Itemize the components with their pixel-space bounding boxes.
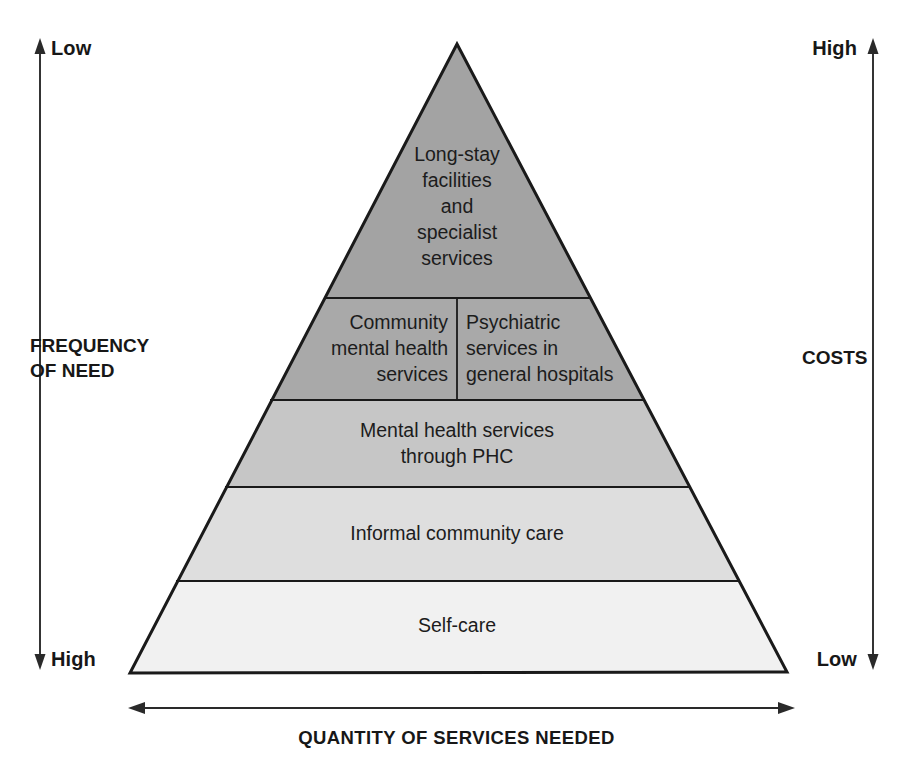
- pyramid-level-4-fill: [100, 487, 820, 581]
- frequency-axis-arrowhead-up: [35, 38, 46, 54]
- frequency-axis-arrowhead-down: [35, 654, 46, 670]
- pyramid-level-5-fill: [100, 581, 820, 676]
- frequency-axis-top-label: Low: [51, 37, 91, 60]
- costs-axis-arrow: [868, 38, 879, 670]
- costs-axis-bottom-label: Low: [762, 648, 857, 671]
- quantity-axis-arrow: [128, 702, 795, 714]
- quantity-axis-arrowhead-left: [128, 702, 145, 714]
- pyramid-level-1-fill: [100, 30, 820, 298]
- quantity-axis-title: QUANTITY OF SERVICES NEEDED: [0, 727, 913, 749]
- frequency-axis-title: FREQUENCY OF NEED: [30, 333, 149, 383]
- frequency-axis-bottom-label: High: [51, 648, 96, 671]
- costs-axis-title: COSTS: [802, 345, 867, 370]
- quantity-axis-arrowhead-right: [778, 702, 795, 714]
- pyramid-level-2-fill: [100, 298, 820, 400]
- costs-axis-top-label: High: [762, 37, 857, 60]
- costs-axis-arrowhead-down: [868, 654, 879, 670]
- pyramid-bands: [100, 30, 820, 676]
- costs-axis-arrowhead-up: [868, 38, 879, 54]
- service-pyramid-figure: Long-stay facilities and specialist serv…: [0, 0, 913, 767]
- pyramid-level-3-fill: [100, 400, 820, 487]
